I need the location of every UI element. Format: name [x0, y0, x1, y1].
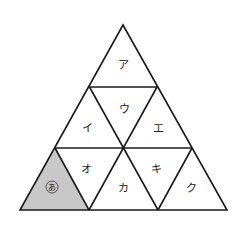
label-ah: あ [48, 183, 56, 192]
label-o: オ [81, 163, 92, 176]
label-ku: ク [186, 182, 197, 195]
label-e: エ [153, 122, 164, 135]
label-i: イ [82, 122, 93, 135]
shaded-cell-ah [20, 148, 89, 210]
triangle-diagram: ア イ ウ エ あ オ カ キ ク [0, 0, 245, 231]
diag-dl-2 [158, 148, 192, 210]
label-u: ウ [119, 103, 130, 116]
label-ki: キ [151, 163, 162, 176]
label-a: ア [118, 59, 129, 72]
label-ka: カ [118, 182, 129, 195]
